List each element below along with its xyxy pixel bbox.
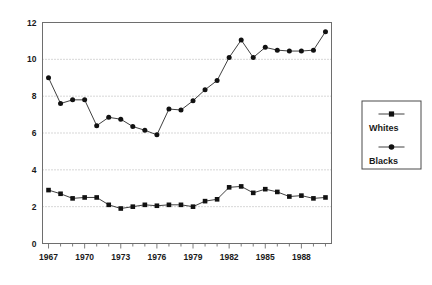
data-point-marker: [118, 206, 123, 211]
data-point-marker: [82, 97, 87, 102]
data-point-marker: [311, 196, 316, 201]
data-point-marker: [275, 190, 280, 195]
x-tick-label: 1973: [111, 252, 130, 262]
x-tick-label: 1979: [184, 252, 203, 262]
y-tick-label: 10: [27, 54, 37, 64]
legend-label: Whites: [369, 123, 399, 133]
data-point-marker: [178, 107, 183, 112]
legend-marker-circle: [389, 144, 395, 150]
data-point-marker: [323, 29, 328, 34]
data-point-marker: [82, 195, 87, 200]
y-tick-label: 6: [32, 128, 37, 138]
gridlines-group: [43, 59, 332, 206]
data-point-marker: [118, 117, 123, 122]
data-point-marker: [70, 196, 75, 201]
data-point-marker: [130, 124, 135, 129]
data-point-marker: [46, 75, 51, 80]
data-point-marker: [287, 194, 292, 199]
y-tick-label: 8: [32, 91, 37, 101]
data-point-marker: [106, 115, 111, 120]
data-point-marker: [94, 123, 99, 128]
x-axis-ticks: [49, 244, 326, 249]
data-point-marker: [251, 55, 256, 60]
chart-container: 024681012 196719701973197619791982198519…: [0, 0, 432, 285]
x-tick-label: 1985: [256, 252, 275, 262]
data-point-marker: [58, 191, 63, 196]
data-point-marker: [299, 49, 304, 54]
data-point-marker: [203, 199, 208, 204]
data-point-marker: [227, 185, 232, 190]
data-series-group: [46, 29, 328, 211]
line-chart: 024681012 196719701973197619791982198519…: [0, 0, 432, 285]
data-point-marker: [227, 55, 232, 60]
data-point-marker: [131, 204, 136, 209]
data-point-marker: [154, 132, 159, 137]
data-point-marker: [311, 48, 316, 53]
data-point-marker: [239, 184, 244, 189]
data-point-marker: [323, 195, 328, 200]
legend-label: Blacks: [369, 156, 398, 166]
data-point-marker: [191, 204, 196, 209]
data-point-marker: [46, 188, 51, 193]
data-point-marker: [142, 128, 147, 133]
x-tick-label: 1988: [292, 252, 311, 262]
data-point-marker: [70, 97, 75, 102]
y-tick-label: 2: [32, 202, 37, 212]
x-tick-label: 1967: [39, 252, 58, 262]
data-point-marker: [167, 203, 172, 208]
series-line: [49, 32, 326, 135]
y-tick-label: 4: [32, 165, 37, 175]
data-point-marker: [299, 193, 304, 198]
data-point-marker: [155, 203, 160, 208]
data-point-marker: [275, 48, 280, 53]
data-point-marker: [215, 78, 220, 83]
y-tick-label: 12: [27, 18, 37, 28]
series-blacks: [46, 29, 328, 137]
data-point-marker: [287, 49, 292, 54]
x-axis-labels: 19671970197319761979198219851988: [39, 252, 311, 262]
data-point-marker: [58, 101, 63, 106]
y-tick-label: 0: [32, 239, 37, 249]
data-point-marker: [166, 107, 171, 112]
series-line: [49, 186, 326, 208]
data-point-marker: [179, 203, 184, 208]
data-point-marker: [263, 45, 268, 50]
data-point-marker: [94, 195, 99, 200]
data-point-marker: [191, 98, 196, 103]
data-point-marker: [143, 203, 148, 208]
x-tick-label: 1982: [220, 252, 239, 262]
data-point-marker: [215, 197, 220, 202]
data-point-marker: [239, 38, 244, 43]
y-axis-labels: 024681012: [27, 18, 37, 249]
x-tick-label: 1970: [75, 252, 94, 262]
data-point-marker: [203, 87, 208, 92]
legend-marker-square: [389, 111, 394, 116]
data-point-marker: [106, 203, 111, 208]
chart-legend: WhitesBlacks: [362, 101, 421, 169]
data-point-marker: [251, 191, 256, 196]
x-tick-label: 1976: [147, 252, 166, 262]
data-point-marker: [263, 187, 268, 192]
